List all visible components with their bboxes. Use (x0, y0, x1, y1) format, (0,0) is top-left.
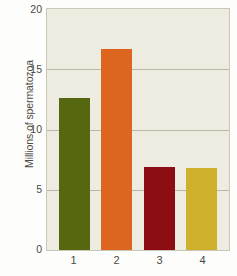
x-tick-label-3: 3 (144, 254, 175, 274)
y-axis-title: Millions of spermatozoa (21, 29, 37, 199)
y-tick-label-10: 10 (2, 124, 42, 134)
plot-area (46, 8, 230, 251)
y-tick-label-15: 15 (2, 64, 42, 74)
y-tick-label-0: 0 (2, 244, 42, 254)
x-axis-tick-labels: 1 2 3 4 (46, 254, 230, 274)
x-tick-label-4: 4 (187, 254, 218, 274)
bar-chart-figure: Millions of spermatozoa 20 15 10 5 0 1 2… (0, 0, 237, 276)
y-tick-label-20: 20 (2, 4, 42, 14)
plot-inner (47, 9, 229, 250)
x-tick-label-1: 1 (58, 254, 89, 274)
y-tick-label-5: 5 (2, 184, 42, 194)
x-tick-label-2: 2 (101, 254, 132, 274)
bar-3 (144, 167, 175, 250)
bar-1 (59, 98, 90, 250)
bar-2 (101, 49, 132, 250)
bar-group (47, 9, 229, 250)
bar-4 (186, 168, 217, 250)
